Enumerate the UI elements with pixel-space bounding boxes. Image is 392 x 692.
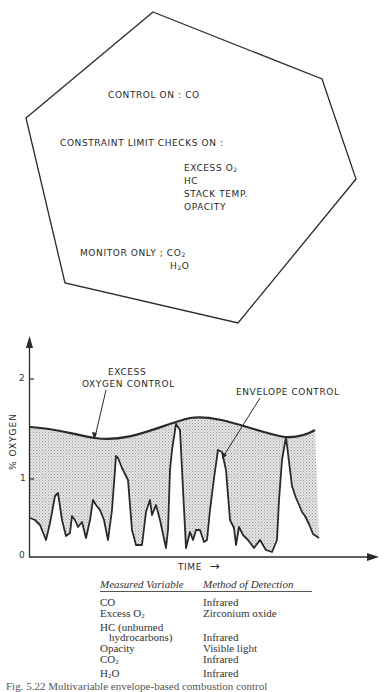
detection-table: Measured Variable Method of Detection CO… (100, 578, 312, 682)
figure-caption: Fig. 5.22 Multivariable envelope-based c… (6, 680, 267, 692)
cell-variable: CO2 (100, 654, 203, 668)
y-tick-label-2: 2 (19, 373, 25, 383)
cell-variable-text: H (100, 667, 108, 679)
table-row: Excess O2 Zirconium oxide (100, 608, 312, 622)
right-arrow-icon: → (209, 559, 220, 573)
excess-oxygen-leader (95, 390, 106, 437)
subscript: 2 (141, 612, 145, 620)
cell-method: Zirconium oxide (203, 608, 277, 622)
table-header: Measured Variable Method of Detection (100, 578, 312, 592)
x-axis-arrow-icon (367, 553, 379, 561)
x-axis-label-text: TIME (178, 562, 202, 572)
cell-variable: Opacity (100, 643, 203, 654)
cell-variable-tail: O (111, 667, 119, 679)
cell-method: Infrared (203, 654, 238, 668)
y-axis-arrow-icon (26, 336, 33, 348)
subscript: 2 (115, 658, 119, 666)
cell-variable: Excess O2 (100, 608, 203, 622)
cell-variable-text: CO (100, 653, 115, 665)
x-axis-label: TIME → (178, 561, 220, 573)
y-tick-label-1: 1 (20, 473, 26, 483)
header-measured-variable: Measured Variable (100, 578, 203, 590)
y-tick-label-0: 0 (19, 550, 25, 560)
oxygen-chart (0, 0, 392, 580)
table-row: CO2 Infrared (100, 654, 312, 668)
y-axis-label: % OXYGEN (8, 413, 19, 470)
table-body: CO Infrared Excess O2 Zirconium oxide HC… (100, 592, 312, 682)
annotation-excess-oxygen-line1: EXCESS (108, 367, 146, 378)
cell-variable-text: Excess O (100, 607, 141, 619)
header-method-of-detection: Method of Detection (203, 578, 293, 590)
annotation-envelope-control: ENVELOPE CONTROL (236, 387, 340, 398)
annotation-excess-oxygen-line2: OXYGEN CONTROL (82, 379, 175, 390)
